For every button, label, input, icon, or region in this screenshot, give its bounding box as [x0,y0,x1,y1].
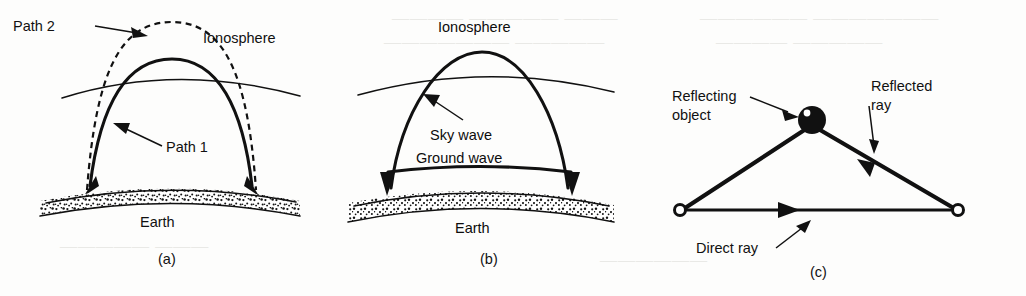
ionosphere-curve-b [358,77,614,95]
scan-bleed-through-3: ———— ————— [716,32,883,52]
label-sky-wave: Sky wave [430,127,492,143]
label-earth-a: Earth [140,214,175,230]
figure-radio-wave-propagation: Path 2 Ionosphere Path 1 Earth (a) [0,0,1026,296]
sphere-highlight [804,110,811,117]
direct-ray-arrowhead [778,202,800,218]
reflecting-sphere [798,106,826,134]
solid-arc-path1 [90,59,252,186]
label-reflecting-object-line2: object [672,107,711,123]
scan-bleed-through-0: ———— ————— ——— [392,8,619,28]
transmitter-node [675,205,686,216]
ground-wave-curve [388,167,571,173]
path1-leader-line [124,128,162,146]
label-path-1: Path 1 [166,139,208,155]
label-earth-b: Earth [455,220,490,236]
label-path-2: Path 2 [13,18,55,34]
label-reflected-ray-line2: ray [871,97,892,113]
label-ground-wave: Ground wave [416,150,502,166]
scan-bleed-through-4: ————— ——— [60,236,209,256]
dashed-arc-path2 [87,22,256,190]
ionosphere-curve [62,79,300,98]
caption-c: (c) [810,264,827,280]
incident-ray [682,125,812,210]
path2-leader-line [95,26,137,33]
sky-wave-leader-line [433,100,463,120]
label-reflected-ray-line1: Reflected [871,78,932,94]
reflecting-object-leader-line [750,97,788,112]
reflected-ray-leader-arrow [869,139,879,154]
scan-bleed-through-2: —————— ——————— [700,8,939,28]
label-reflecting-object-line1: Reflecting [672,88,736,104]
sky-wave-leader-arrow [423,94,440,107]
caption-b: (b) [480,251,498,267]
reflecting-object-leader-arrow [782,110,799,121]
scan-bleed-through-5: —————— [600,250,708,270]
receiver-node [953,205,964,216]
label-ionosphere-a: Ionosphere [203,30,276,46]
path1-leader-arrow [113,123,130,134]
reflected-ray [815,127,957,210]
direct-ray-leader-line [776,228,802,248]
scan-bleed-through-1: ——————— ————— [384,32,605,52]
